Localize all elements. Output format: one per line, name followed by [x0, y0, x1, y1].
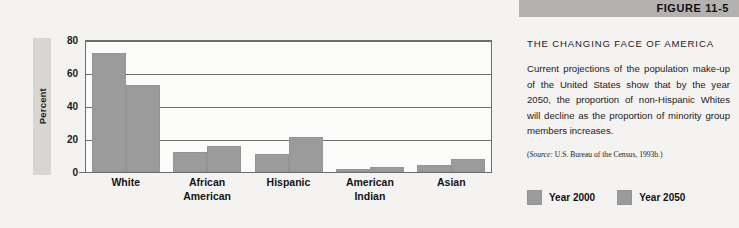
figure-number-label: FIGURE 11-5 [656, 2, 729, 14]
x-axis-line [85, 172, 492, 173]
y-axis-tick-60: 60 [56, 68, 78, 79]
x-axis-label-line: White [85, 176, 166, 190]
x-axis-label: Hispanic [248, 176, 329, 190]
bar-group [173, 40, 241, 172]
figure-panel: Percent 020406080 WhiteAfricanAmericanHi… [0, 0, 739, 228]
bar [451, 159, 485, 172]
source-word: Source: [530, 150, 553, 159]
y-axis-label-band: Percent [33, 38, 51, 175]
figure-title: THE CHANGING FACE OF AMERICA [527, 38, 735, 49]
x-axis-label-line: American [329, 176, 410, 190]
x-axis-label-line: Indian [329, 190, 410, 204]
legend-label: Year 2000 [549, 192, 595, 203]
bar [173, 152, 207, 172]
bar [289, 137, 323, 172]
chart-panel: Percent 020406080 WhiteAfricanAmericanHi… [0, 0, 519, 228]
figure-source-line: (Source: U.S. Bureau of the Census, 1993… [527, 150, 732, 159]
x-axis-label: Asian [411, 176, 492, 190]
legend-item: Year 2050 [617, 190, 685, 205]
bar-group [92, 40, 160, 172]
x-axis-label-line: African [166, 176, 247, 190]
legend-swatch [617, 190, 632, 205]
legend-item: Year 2000 [527, 190, 595, 205]
x-axis-label-line: Asian [411, 176, 492, 190]
legend-swatch [527, 190, 542, 205]
y-axis-tick-labels: 020406080 [56, 0, 78, 228]
y-axis-tick-80: 80 [56, 35, 78, 46]
bar-group [255, 40, 323, 172]
y-axis-tick-40: 40 [56, 101, 78, 112]
x-axis-label: White [85, 176, 166, 190]
bar [255, 154, 289, 172]
bar [336, 169, 370, 172]
source-citation: U.S. Bureau of the Census, 1993b.) [553, 150, 663, 159]
zero-tick-mark [79, 172, 86, 173]
bar-group [336, 40, 404, 172]
bar [370, 167, 404, 172]
y-axis-tick-20: 20 [56, 134, 78, 145]
bar [92, 53, 126, 172]
bar [126, 85, 160, 172]
figure-caption-text: Current projections of the population ma… [527, 61, 730, 139]
bar-group [417, 40, 485, 172]
x-axis-label-line: Hispanic [248, 176, 329, 190]
bars-layer [85, 40, 492, 172]
y-axis-tick-0: 0 [56, 167, 78, 178]
x-axis-label: AfricanAmerican [166, 176, 247, 203]
legend-label: Year 2050 [639, 192, 685, 203]
bar [207, 146, 241, 172]
x-axis-category-labels: WhiteAfricanAmericanHispanicAmericanIndi… [85, 176, 492, 222]
figure-text-panel: FIGURE 11-5 THE CHANGING FACE OF AMERICA… [519, 0, 739, 228]
x-axis-label-line: American [166, 190, 247, 204]
x-axis-label: AmericanIndian [329, 176, 410, 203]
y-axis-label: Percent [37, 88, 48, 124]
chart-legend: Year 2000Year 2050 [527, 190, 685, 205]
bar [417, 165, 451, 172]
